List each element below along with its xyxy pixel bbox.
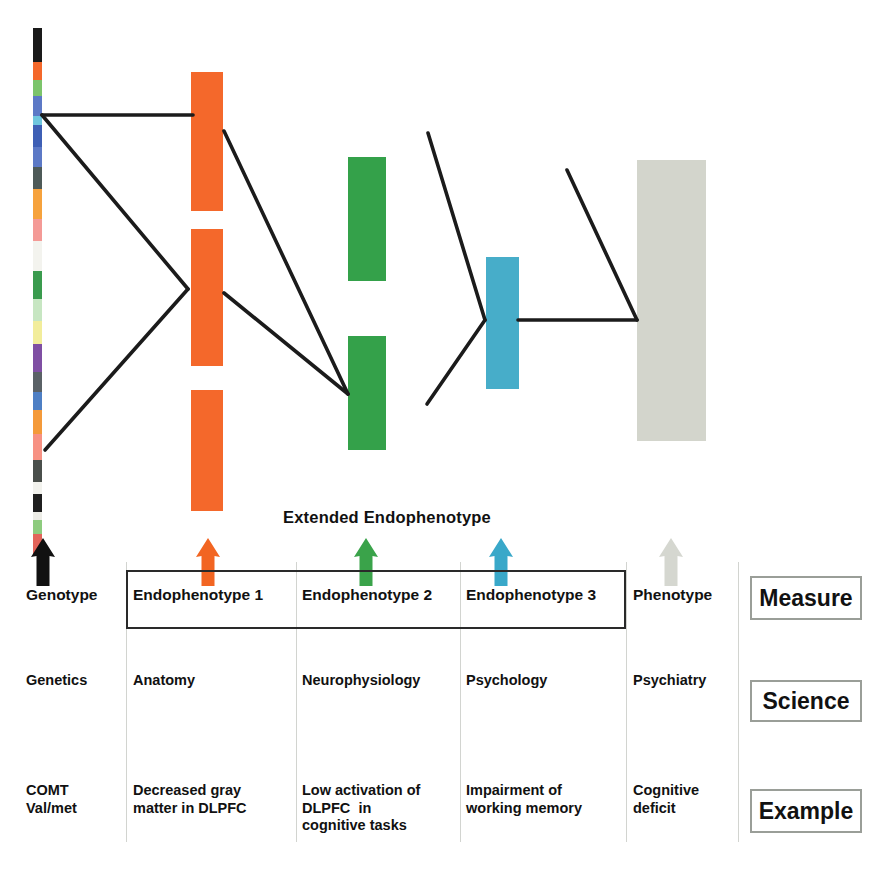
cell-endophenotype2-science: Neurophysiology: [302, 672, 420, 690]
endophenotype1-bar-c: [191, 390, 223, 511]
cell-endophenotype1-example: Decreased gray matter in DLPFC: [133, 782, 247, 817]
legend-measure-box: Measure: [750, 576, 862, 620]
endo2-to-endo3-upper: [428, 133, 485, 320]
cell-phenotype-measure: Phenotype: [633, 586, 712, 604]
cell-endophenotype1-science: Anatomy: [133, 672, 195, 690]
chromosome-band-13: [33, 321, 42, 344]
chromosome-band-16: [33, 392, 42, 410]
endophenotype1-bar-a: [191, 72, 223, 211]
endo3-to-phenotype-diagonal: [567, 170, 637, 320]
cell-phenotype-example: Cognitive deficit: [633, 782, 699, 817]
chromosome-band-5: [33, 125, 42, 147]
chromosome-band-20: [33, 482, 42, 494]
cell-genotype-measure: Genotype: [26, 586, 97, 604]
chromosome-band-23: [33, 520, 42, 534]
chromosome-band-15: [33, 372, 42, 392]
cell-endophenotype3-science: Psychology: [466, 672, 547, 690]
cell-genotype-science: Genetics: [26, 672, 87, 690]
legend-science-label: Science: [763, 688, 850, 715]
column-divider-3: [626, 562, 627, 842]
cell-endophenotype3-measure: Endophenotype 3: [466, 586, 596, 604]
chromosome-band-8: [33, 189, 42, 219]
connector-lines: [0, 0, 890, 875]
chromosome-band-21: [33, 494, 42, 512]
cell-phenotype-science: Psychiatry: [633, 672, 706, 690]
cell-endophenotype3-example: Impairment of working memory: [466, 782, 582, 817]
genotype-to-endo1-lower: [42, 115, 188, 289]
chromosome-band-7: [33, 167, 42, 189]
endophenotype3-bar: [486, 257, 519, 389]
chromosome-band-6: [33, 147, 42, 167]
endophenotype2-bar-a: [348, 157, 386, 281]
cell-endophenotype2-measure: Endophenotype 2: [302, 586, 432, 604]
legend-measure-label: Measure: [759, 585, 852, 612]
endo2-to-endo3-lower: [427, 320, 485, 404]
cell-endophenotype1-measure: Endophenotype 1: [133, 586, 263, 604]
chromosome-band-1: [33, 62, 42, 80]
chromosome-band-11: [33, 271, 42, 299]
genotype-lower-to-endo1: [45, 289, 188, 450]
chromosome-band-14: [33, 344, 42, 372]
legend-example-label: Example: [759, 798, 854, 825]
arrow-glyph: [31, 538, 55, 586]
chromosome-band-3: [33, 96, 42, 116]
extended-endophenotype-title: Extended Endophenotype: [283, 508, 491, 527]
cell-endophenotype2-example: Low activation of DLPFC in cognitive tas…: [302, 782, 420, 835]
chromosome-band-2: [33, 80, 42, 96]
chromosome-band-9: [33, 219, 42, 241]
chromosome-band-19: [33, 460, 42, 482]
chromosome-band-10: [33, 241, 42, 271]
chromosome-band-4: [33, 116, 42, 125]
chromosome-band-22: [33, 512, 42, 520]
phenotype-bar: [637, 160, 706, 441]
genotype-arrow: [30, 538, 56, 586]
endo1-to-endo2-upper: [224, 131, 348, 394]
endo1-to-endo2-lower: [224, 293, 348, 394]
cell-genotype-example: COMT Val/met: [26, 782, 77, 817]
column-divider-4: [738, 562, 739, 842]
phenotype-arrow: [658, 538, 684, 586]
chromosome-band-18: [33, 434, 42, 460]
chromosome-ideogram: [33, 28, 42, 528]
chromosome-band-12: [33, 299, 42, 321]
chromosome-band-17: [33, 410, 42, 434]
endophenotype1-bar-b: [191, 229, 223, 366]
chromosome-band-0: [33, 28, 42, 62]
legend-science-box: Science: [750, 680, 862, 722]
arrow-glyph: [659, 538, 683, 586]
legend-example-box: Example: [750, 789, 862, 833]
diagram-canvas: Extended Endophenotype GenotypeGeneticsC…: [0, 0, 890, 875]
endophenotype2-bar-b: [348, 336, 386, 450]
